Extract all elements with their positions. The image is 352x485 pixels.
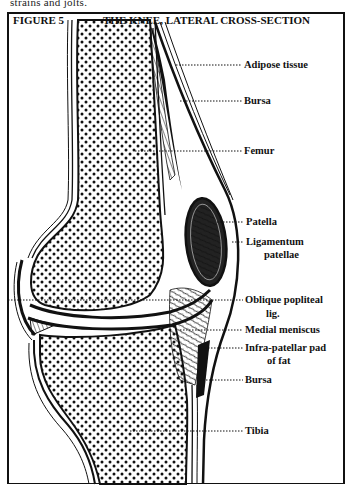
label-tibia: Tibia (245, 425, 269, 437)
figure-title: THE KNEE, LATERAL CROSS-SECTION (103, 14, 310, 26)
label-bursa-lower: Bursa (245, 374, 272, 386)
label-femur: Femur (244, 145, 274, 157)
label-oblique-popliteal-lig: Oblique popliteal (245, 294, 323, 306)
meniscus-wedge (30, 318, 55, 335)
label-patella: Patella (246, 216, 277, 228)
label-oblique-popliteal-lig-line2: lig. (266, 308, 280, 320)
tibia-bone (29, 325, 198, 484)
label-ligamentum-patellae-line2: patellae (264, 249, 299, 261)
patella-bone (182, 196, 231, 288)
femur-bone (28, 20, 165, 310)
label-infra-patellar-pad-line2: of fat (267, 355, 291, 367)
label-medial-meniscus: Medial meniscus (245, 324, 320, 336)
label-ligamentum-patellae: Ligamentum (246, 236, 304, 248)
label-infra-patellar-pad: Infra-patellar pad (245, 342, 326, 354)
label-adipose-tissue: Adipose tissue (244, 59, 308, 71)
figure-number: FIGURE 5 (13, 14, 64, 26)
label-bursa-upper: Bursa (244, 95, 271, 107)
